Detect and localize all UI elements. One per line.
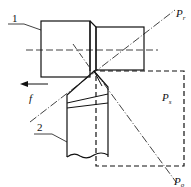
label-2: 2 — [37, 121, 43, 133]
tool-rake-line-2 — [67, 103, 108, 108]
label-pr: Pr — [175, 7, 186, 22]
tool-planes-diagram: 1 2 f Pr Ps Po — [0, 0, 191, 187]
tool-break-line — [67, 153, 108, 158]
tool-rake-line-1 — [67, 94, 108, 103]
workpiece-large-diameter — [41, 21, 90, 77]
label-1: 1 — [12, 12, 18, 24]
workpiece-shoulder — [90, 21, 96, 71]
label-feed: f — [29, 92, 34, 104]
workpiece-small-diameter — [96, 27, 144, 70]
label-po: Po — [173, 175, 185, 187]
turning-tool — [67, 71, 108, 157]
label-ps: Ps — [161, 91, 172, 106]
feed-arrowhead — [20, 81, 28, 87]
tip-normal-line — [73, 44, 90, 68]
leader-1 — [8, 24, 41, 30]
plane-ps-outline — [96, 71, 184, 166]
leader-2 — [34, 134, 67, 142]
